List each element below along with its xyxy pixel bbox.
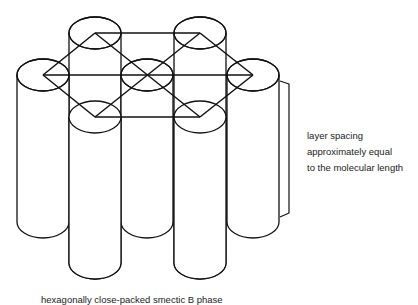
side-label-line-1: layer spacing [307, 128, 403, 144]
layer-spacing-label: layer spacing approximately equal to the… [307, 128, 403, 176]
side-label-line-3: to the molecular length [307, 160, 403, 176]
side-label-line-2: approximately equal [307, 144, 403, 160]
cylinder-front-right [174, 101, 226, 279]
cylinder-front-left [69, 101, 121, 279]
layer-spacing-bracket [280, 81, 289, 217]
figure-caption: hexagonally close-packed smectic B phase [41, 292, 223, 305]
